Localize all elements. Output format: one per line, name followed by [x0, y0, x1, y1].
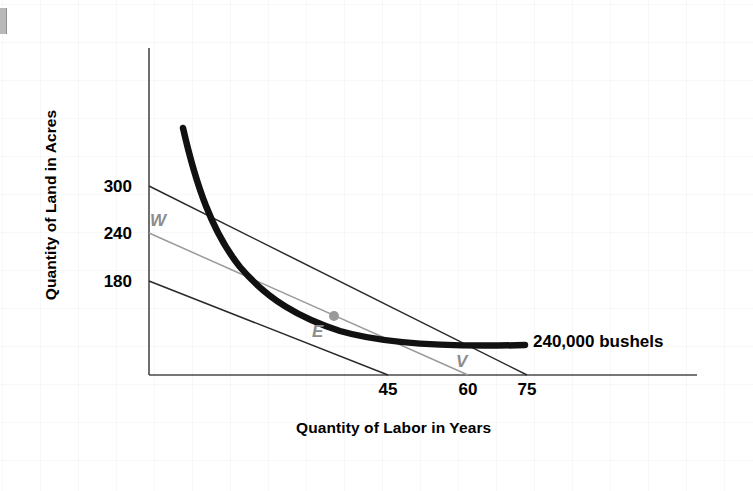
point-label-w: W [150, 211, 166, 231]
isocost-line-tangent [149, 233, 468, 375]
tangency-point-marker-e [329, 311, 339, 321]
x-tick-label-45: 45 [368, 380, 408, 400]
chart-plot-area [0, 0, 753, 491]
x-axis-title: Quantity of Labor in Years [296, 419, 491, 437]
point-label-e: E [312, 322, 323, 342]
point-label-v: V [456, 352, 467, 372]
y-tick-label-180: 180 [84, 272, 132, 292]
x-tick-label-75: 75 [507, 380, 547, 400]
x-tick-label-60: 60 [448, 380, 488, 400]
y-axis-title: Quantity of Land in Acres [42, 90, 60, 320]
isoquant-isocost-figure: 180 240 300 45 60 75 W E V 240,000 bushe… [0, 0, 753, 491]
y-tick-label-300: 300 [84, 177, 132, 197]
y-tick-label-240: 240 [84, 224, 132, 244]
isoquant-output-label: 240,000 bushels [533, 332, 663, 352]
isoquant-curve [183, 128, 525, 346]
